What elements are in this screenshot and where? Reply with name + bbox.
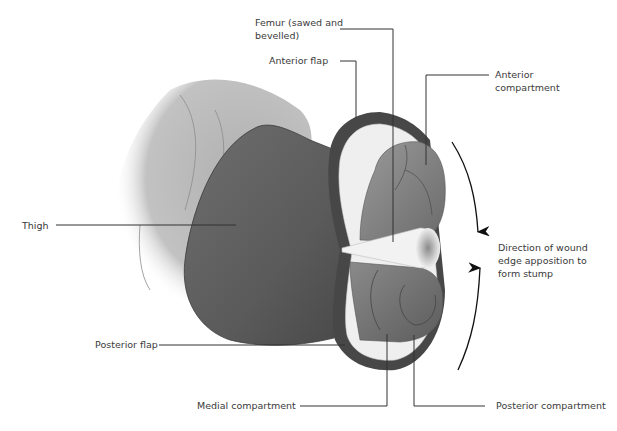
label-thigh: Thigh bbox=[22, 219, 49, 232]
label-posterior-flap: Posterior flap bbox=[95, 338, 158, 351]
amputation-diagram: Femur (sawed and bevelled) Anterior flap… bbox=[0, 0, 617, 431]
label-direction: Direction of wound edge apposition to fo… bbox=[498, 241, 588, 280]
femur-cut-end bbox=[416, 228, 440, 268]
label-anterior-compartment: Anterior compartment bbox=[495, 68, 560, 94]
arrow-down bbox=[452, 142, 478, 232]
label-posterior-compartment: Posterior compartment bbox=[496, 399, 606, 412]
arrow-up bbox=[458, 268, 480, 370]
label-femur: Femur (sawed and bevelled) bbox=[255, 16, 343, 42]
posterior-medial-compartment bbox=[350, 262, 443, 342]
label-anterior-flap: Anterior flap bbox=[269, 54, 328, 67]
label-medial-compartment: Medial compartment bbox=[197, 399, 296, 412]
